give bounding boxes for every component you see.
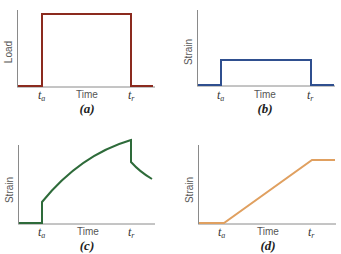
- panel-c: Strain Time ta tr (c): [4, 140, 155, 253]
- figure: Load Time ta tr (a) Strain Time ta tr (b…: [0, 0, 341, 254]
- caption: (c): [80, 238, 94, 253]
- ta-label: ta: [217, 88, 224, 103]
- strain-curve: [199, 160, 335, 223]
- y-label: Load: [3, 41, 14, 63]
- caption: (a): [79, 101, 94, 116]
- ta-label: ta: [38, 225, 45, 240]
- tr-label: tr: [307, 88, 314, 103]
- y-label: Strain: [184, 177, 195, 203]
- x-label: Time: [257, 226, 279, 237]
- panel-b: Strain Time ta tr (b): [183, 10, 335, 116]
- ta-label: ta: [218, 225, 225, 240]
- x-label: Time: [77, 226, 99, 237]
- x-label: Time: [76, 89, 98, 100]
- ta-label: ta: [38, 88, 45, 103]
- tr-label: tr: [308, 225, 315, 240]
- y-label: Strain: [183, 39, 194, 65]
- tr-label: tr: [128, 225, 135, 240]
- caption: (d): [260, 238, 275, 253]
- panel-a: Load Time ta tr (a): [3, 10, 155, 116]
- load-curve: [18, 14, 153, 86]
- panel-d: Strain Time ta tr (d): [184, 145, 336, 253]
- x-label: Time: [254, 89, 276, 100]
- caption: (b): [257, 101, 272, 116]
- y-label: Strain: [4, 177, 15, 203]
- strain-curve: [19, 140, 152, 223]
- strain-curve: [198, 60, 334, 85]
- tr-label: tr: [128, 88, 135, 103]
